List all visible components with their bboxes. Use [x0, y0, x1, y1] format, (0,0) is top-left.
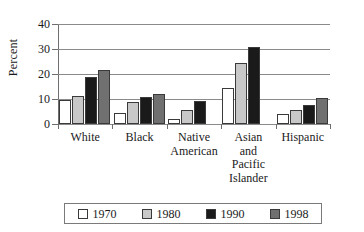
bar-1980	[72, 96, 84, 124]
legend-swatch-1998	[270, 209, 280, 219]
category-label-line: Pacific	[221, 158, 275, 172]
category-label-asian-and-pacific-islander: AsianandPacificIslander	[221, 131, 275, 185]
bar-1998	[316, 98, 328, 124]
legend-item-1980: 1980	[142, 208, 181, 220]
category-label-white: White	[58, 131, 112, 145]
y-axis-tick	[52, 74, 58, 75]
legend-label-1998: 1998	[285, 208, 309, 220]
legend-item-1990: 1990	[206, 208, 245, 220]
bar-1990	[85, 77, 97, 125]
category-tick	[112, 124, 113, 129]
bar-1970	[277, 114, 289, 125]
category-label-line: Black	[112, 131, 166, 145]
category-label-line: and	[221, 145, 275, 159]
category-tick	[330, 124, 331, 129]
legend-label-1990: 1990	[221, 208, 245, 220]
bar-1970	[168, 119, 180, 125]
category-label-line: Islander	[221, 172, 275, 186]
bar-1980	[181, 110, 193, 125]
bar-1980	[290, 110, 302, 124]
legend-swatch-1970	[78, 209, 88, 219]
category-label-black: Black	[112, 131, 166, 145]
category-label-line: American	[167, 145, 221, 159]
bar-1980	[127, 102, 139, 124]
category-tick	[167, 124, 168, 129]
legend-label-1980: 1980	[157, 208, 181, 220]
bar-group-bars	[168, 24, 220, 124]
bar-1990	[194, 101, 206, 124]
y-axis-tick	[52, 99, 58, 100]
category-label-line: Asian	[221, 131, 275, 145]
y-axis-tick-label: 0	[10, 118, 50, 130]
bar-1998	[153, 94, 165, 124]
y-axis-tick-label: 10	[10, 93, 50, 105]
legend-item-1970: 1970	[78, 208, 117, 220]
bar-1970	[114, 113, 126, 125]
category-tick	[276, 124, 277, 129]
legend-swatch-1980	[142, 209, 152, 219]
y-axis-tick-label: 30	[10, 43, 50, 55]
legend-item-1998: 1998	[270, 208, 309, 220]
legend-swatch-1990	[206, 209, 216, 219]
category-tick	[58, 124, 59, 129]
bar-1980	[235, 63, 247, 125]
y-axis-tick-label: 40	[10, 18, 50, 30]
y-axis-tick	[52, 24, 58, 25]
category-label-line: Native	[167, 131, 221, 145]
y-axis-tick-labels: 010203040	[8, 0, 50, 232]
bar-group-bars	[59, 24, 111, 124]
category-label-line: White	[58, 131, 112, 145]
bar-group-bars	[222, 24, 274, 124]
bar-1990	[248, 47, 260, 124]
y-axis-tick-label: 20	[10, 68, 50, 80]
gridline	[58, 124, 330, 125]
category-label-native-american: NativeAmerican	[167, 131, 221, 158]
category-label-line: Hispanic	[276, 131, 330, 145]
category-tick	[221, 124, 222, 129]
category-label-hispanic: Hispanic	[276, 131, 330, 145]
bar-1990	[303, 105, 315, 125]
bar-1970	[59, 100, 71, 124]
legend-label-1970: 1970	[93, 208, 117, 220]
bar-chart: Percent 010203040 1970198019901998 White…	[0, 0, 364, 232]
bar-1990	[140, 97, 152, 125]
bar-group-bars	[277, 24, 329, 124]
chart-legend: 1970198019901998	[64, 203, 322, 224]
bar-1970	[222, 88, 234, 124]
bar-group-bars	[114, 24, 166, 124]
plot-area	[58, 24, 330, 124]
bar-1998	[98, 70, 110, 124]
y-axis-tick	[52, 49, 58, 50]
